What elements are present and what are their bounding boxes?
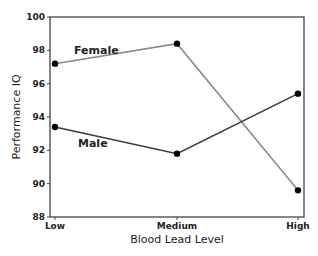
data-point — [295, 187, 301, 193]
x-tick-label: Low — [45, 221, 65, 231]
data-point — [174, 40, 180, 46]
data-point — [295, 90, 301, 96]
series-label-male: Male — [78, 137, 108, 150]
y-tick-label: 100 — [26, 12, 45, 22]
series-label-female: Female — [74, 44, 119, 57]
x-axis-label: Blood Lead Level — [130, 233, 224, 246]
y-axis-label: Performance IQ — [10, 74, 23, 159]
x-tick-label: High — [286, 221, 309, 231]
y-tick-label: 90 — [32, 179, 45, 189]
data-point — [52, 60, 58, 66]
line-chart: 889092949698100 LowMediumHigh FemaleMale… — [0, 0, 318, 256]
y-tick-label: 92 — [32, 145, 45, 155]
y-tick-label: 88 — [32, 212, 45, 222]
y-tick-label: 96 — [32, 79, 45, 89]
data-point — [52, 124, 58, 130]
series-lines — [52, 40, 301, 193]
y-tick-label: 94 — [32, 112, 45, 122]
y-tick-label: 98 — [32, 45, 45, 55]
x-tick-label: Medium — [157, 221, 197, 231]
series-line-female — [55, 44, 298, 191]
x-axis-ticks: LowMediumHigh — [45, 217, 310, 231]
data-point — [174, 150, 180, 156]
y-axis-ticks: 889092949698100 — [26, 12, 50, 222]
